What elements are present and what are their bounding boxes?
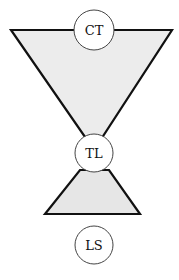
node-ls: LS: [75, 226, 113, 264]
node-tl-label: TL: [85, 146, 103, 161]
node-ct-label: CT: [85, 23, 104, 38]
node-ls-label: LS: [85, 238, 103, 253]
node-tl: TL: [75, 134, 113, 172]
lower-triangle: [45, 170, 140, 214]
node-ct: CT: [74, 10, 114, 50]
diagram-canvas: CT TL LS: [0, 0, 179, 280]
